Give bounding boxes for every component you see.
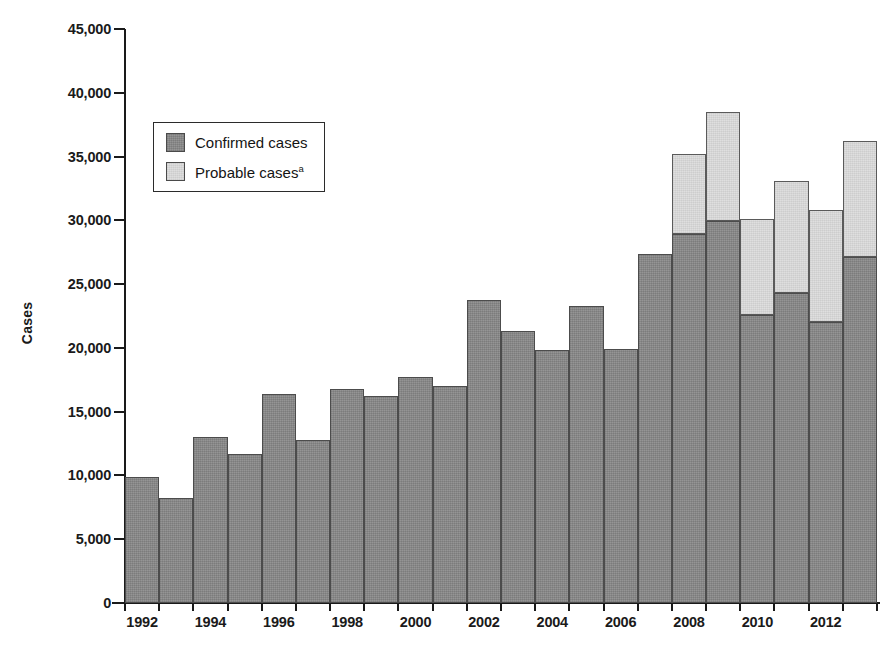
bar-group[interactable] <box>467 29 501 603</box>
bar-segment-confirmed[interactable] <box>125 477 159 603</box>
x-tick-label: 2010 <box>742 614 773 630</box>
bar-group[interactable] <box>604 29 638 603</box>
x-tick-mark <box>876 602 878 611</box>
x-tick-mark <box>500 602 502 611</box>
bar-segment-confirmed[interactable] <box>296 440 330 603</box>
bar-group[interactable] <box>706 29 740 603</box>
y-tick-mark <box>114 92 125 94</box>
x-tick-mark <box>534 602 536 611</box>
x-tick-mark <box>397 602 399 611</box>
chart-legend: Confirmed cases Probable casesa <box>153 122 325 192</box>
bar-group[interactable] <box>262 29 296 603</box>
bar-segment-confirmed[interactable] <box>228 454 262 603</box>
x-tick-mark <box>773 602 775 611</box>
x-tick-mark <box>808 602 810 611</box>
bar-segment-confirmed[interactable] <box>501 331 535 603</box>
bar-segment-probable[interactable] <box>672 154 706 234</box>
x-tick-mark <box>568 602 570 611</box>
legend-swatch-confirmed-icon <box>166 133 185 152</box>
y-tick-label: 35,000 <box>68 149 111 165</box>
x-tick-label: 2012 <box>810 614 841 630</box>
bar-group[interactable] <box>296 29 330 603</box>
bar-group[interactable] <box>364 29 398 603</box>
bar-segment-confirmed[interactable] <box>569 306 603 603</box>
bar-group[interactable] <box>330 29 364 603</box>
legend-label-probable: Probable casesa <box>195 163 304 181</box>
bar-segment-confirmed[interactable] <box>638 254 672 604</box>
x-tick-label: 2000 <box>400 614 431 630</box>
y-axis-title: Cases <box>19 302 35 344</box>
bar-segment-confirmed[interactable] <box>193 437 227 603</box>
bar-segment-confirmed[interactable] <box>774 293 808 603</box>
bar-group[interactable] <box>159 29 193 603</box>
y-tick-label: 30,000 <box>68 212 111 228</box>
bar-group[interactable] <box>809 29 843 603</box>
bar-segment-confirmed[interactable] <box>672 234 706 603</box>
bar-group[interactable] <box>774 29 808 603</box>
legend-item-confirmed[interactable]: Confirmed cases <box>166 133 308 152</box>
bar-segment-probable[interactable] <box>740 219 774 315</box>
x-tick-label: 2002 <box>468 614 499 630</box>
bar-group[interactable] <box>398 29 432 603</box>
bar-segment-confirmed[interactable] <box>159 498 193 603</box>
x-tick-label: 1998 <box>331 614 362 630</box>
y-tick-mark <box>114 411 125 413</box>
x-tick-label: 1994 <box>195 614 226 630</box>
y-tick-label: 20,000 <box>68 340 111 356</box>
bar-segment-probable[interactable] <box>843 141 877 257</box>
x-tick-mark <box>432 602 434 611</box>
y-tick-mark <box>114 28 125 30</box>
bar-segment-confirmed[interactable] <box>843 257 877 603</box>
x-tick-mark <box>295 602 297 611</box>
bar-segment-confirmed[interactable] <box>433 386 467 603</box>
x-tick-mark <box>227 602 229 611</box>
bar-group[interactable] <box>843 29 877 603</box>
bar-segment-confirmed[interactable] <box>330 389 364 603</box>
bar-group[interactable] <box>569 29 603 603</box>
bar-group[interactable] <box>228 29 262 603</box>
legend-label-probable-text: Probable cases <box>195 164 298 181</box>
legend-footnote-marker: a <box>298 163 303 174</box>
bar-segment-probable[interactable] <box>774 181 808 293</box>
bar-segment-confirmed[interactable] <box>262 394 296 603</box>
legend-swatch-probable-icon <box>166 162 185 181</box>
legend-label-confirmed: Confirmed cases <box>195 134 308 151</box>
x-tick-mark <box>705 602 707 611</box>
bar-group[interactable] <box>638 29 672 603</box>
bar-segment-confirmed[interactable] <box>706 221 740 603</box>
y-tick-label: 45,000 <box>68 21 111 37</box>
bar-segment-confirmed[interactable] <box>535 350 569 603</box>
y-tick-label: 25,000 <box>68 276 111 292</box>
x-tick-mark <box>466 602 468 611</box>
bar-segment-confirmed[interactable] <box>740 315 774 603</box>
y-tick-mark <box>114 347 125 349</box>
bar-segment-confirmed[interactable] <box>398 377 432 603</box>
bar-group[interactable] <box>535 29 569 603</box>
x-tick-mark <box>842 602 844 611</box>
bar-segment-probable[interactable] <box>809 210 843 322</box>
y-tick-label: 40,000 <box>68 85 111 101</box>
y-tick-label: 10,000 <box>68 467 111 483</box>
bar-segment-confirmed[interactable] <box>467 300 501 603</box>
bar-group[interactable] <box>501 29 535 603</box>
chart-container: Cases 45,00040,00035,00030,00025,00020,0… <box>0 0 890 646</box>
bar-group[interactable] <box>125 29 159 603</box>
x-tick-label: 2008 <box>673 614 704 630</box>
bar-segment-confirmed[interactable] <box>364 396 398 603</box>
bar-group[interactable] <box>672 29 706 603</box>
bar-group[interactable] <box>433 29 467 603</box>
plot-area <box>125 29 877 603</box>
y-tick-label: 5,000 <box>76 531 111 547</box>
legend-item-probable[interactable]: Probable casesa <box>166 162 308 181</box>
bar-segment-confirmed[interactable] <box>604 349 638 603</box>
x-tick-mark <box>671 602 673 611</box>
bar-group[interactable] <box>740 29 774 603</box>
bar-group[interactable] <box>193 29 227 603</box>
bar-segment-confirmed[interactable] <box>809 322 843 603</box>
y-tick-mark <box>114 538 125 540</box>
x-tick-mark <box>158 602 160 611</box>
bar-segment-probable[interactable] <box>706 112 740 221</box>
x-tick-mark <box>363 602 365 611</box>
x-tick-label: 2004 <box>537 614 568 630</box>
y-tick-mark <box>114 283 125 285</box>
